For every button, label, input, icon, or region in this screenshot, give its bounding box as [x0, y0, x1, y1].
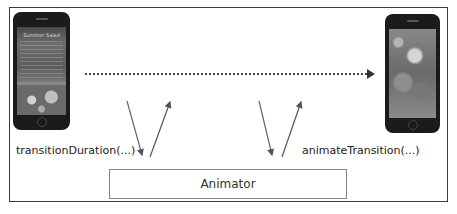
- animator-box: Animator: [109, 169, 347, 199]
- screen-photo: [17, 85, 66, 115]
- screen-text-lines: [20, 41, 63, 81]
- transition-duration-label: transitionDuration(...): [16, 144, 135, 157]
- home-button-icon: [408, 120, 418, 130]
- animate-transition-label: animateTransition(...): [302, 144, 420, 157]
- source-phone-screenshot: Summer Salad: [13, 12, 70, 130]
- arrowhead-right-icon: [367, 69, 375, 79]
- destination-phone-screenshot: [385, 14, 440, 133]
- source-screen: Summer Salad: [17, 27, 66, 115]
- transition-dotted-line: [85, 73, 367, 75]
- home-button-icon: [37, 117, 47, 127]
- screen-title: Summer Salad: [17, 32, 66, 38]
- phone-speaker: [407, 20, 419, 22]
- destination-screen: [389, 29, 436, 118]
- animator-label: Animator: [200, 177, 255, 191]
- phone-speaker: [36, 18, 48, 20]
